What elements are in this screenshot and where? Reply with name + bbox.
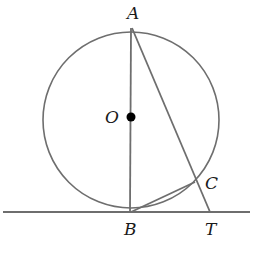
center-dot xyxy=(127,113,136,122)
geometry-diagram: A O C B T xyxy=(0,0,255,253)
chord-bc xyxy=(131,182,195,212)
label-c: C xyxy=(205,173,218,193)
label-t: T xyxy=(205,219,218,239)
label-a: A xyxy=(125,3,139,23)
secant-at xyxy=(132,28,210,212)
label-o: O xyxy=(105,107,119,127)
label-b: B xyxy=(123,219,137,239)
